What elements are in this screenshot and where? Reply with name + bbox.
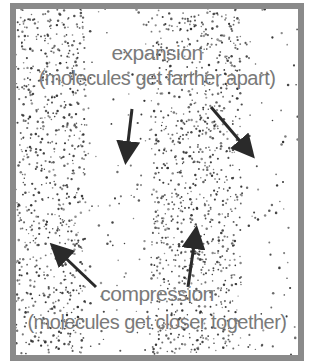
arrow-expansion-left <box>126 109 132 159</box>
expansion-title: expansion <box>16 41 298 65</box>
compression-title: compression <box>16 282 298 306</box>
sound-wave-diagram: expansion (molecules get farther apart) … <box>10 3 304 361</box>
compression-subtitle: (molecules get closer together) <box>16 311 298 334</box>
arrow-compression-left <box>54 247 96 287</box>
expansion-subtitle: (molecules get farther apart) <box>16 67 298 90</box>
arrow-expansion-right <box>211 107 251 154</box>
arrow-compression-right <box>188 231 196 287</box>
